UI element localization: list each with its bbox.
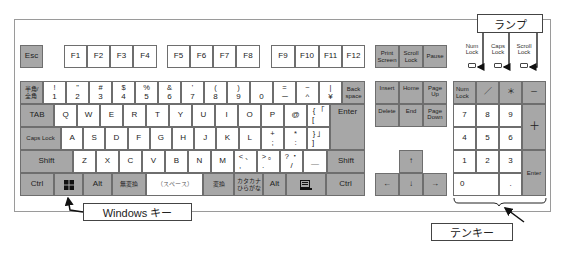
callout-lines (0, 0, 564, 254)
windows-key-pointer (68, 198, 83, 212)
numpad-brace (454, 198, 546, 206)
tenkey-pointer (505, 208, 524, 222)
caps-lock-lamp-pointer (504, 33, 509, 67)
num-lock-lamp-pointer (478, 33, 483, 67)
scroll-lock-lamp-pointer (530, 33, 537, 67)
